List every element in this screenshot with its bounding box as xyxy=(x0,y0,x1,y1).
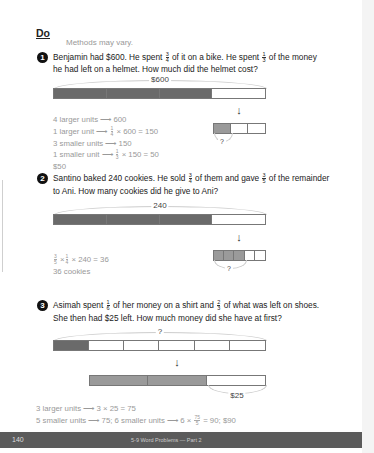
bar-total-label: 240 xyxy=(151,201,168,210)
problem-2-text-line2: to Ani. How many cookies did he give to … xyxy=(53,185,218,197)
problem-3-text-line2: She then had $25 left. How much money di… xyxy=(53,312,282,324)
unknown-label: ? xyxy=(225,265,233,272)
solution-line: 3 larger units ⟶ 3 × 25 = 75 xyxy=(36,403,136,415)
text: of the money xyxy=(267,52,317,62)
bar-model-1 xyxy=(53,88,266,99)
problem-number-badge: 2 xyxy=(37,173,48,184)
solution-line: 4 larger units ⟶ 600 xyxy=(53,114,126,126)
problem-number-badge: 3 xyxy=(37,300,48,311)
unknown-label: ? xyxy=(218,138,226,145)
solution-line: 35 ×14 × 240 = 36 xyxy=(53,254,109,266)
solution-answer: 36 cookies xyxy=(53,266,90,278)
section-heading: Do xyxy=(36,27,50,39)
bar-total-label: $600 xyxy=(149,75,171,84)
solution-line: 1 smaller unit ⟶ 13 × 150 = 50 xyxy=(53,149,159,161)
page-number: 140 xyxy=(12,436,24,443)
down-arrow-icon: ↓ xyxy=(236,104,242,116)
bar-model-3 xyxy=(53,340,266,351)
problem-1-text-line1: Benjamin had $600. He spent 34 of it on … xyxy=(53,51,317,64)
problem-number-badge: 1 xyxy=(37,52,48,63)
fraction: 13 xyxy=(262,52,265,64)
bar-model-2 xyxy=(53,214,266,225)
fraction: 34 xyxy=(166,52,169,64)
text: Benjamin had $600. He spent xyxy=(53,52,165,62)
solution-line: 3 smaller units ⟶ 150 xyxy=(53,138,132,150)
problem-3-text-line1: Asimah spent 16 of her money on a shirt … xyxy=(53,299,319,312)
footer-title: 5-9 Word Problems — Part 2 xyxy=(131,437,202,443)
solution-answer: $50 xyxy=(53,161,66,173)
solution-line: 1 larger unit ⟶ 14 × 600 = 150 xyxy=(53,126,158,138)
methods-note: Methods may vary. xyxy=(66,38,133,47)
problem-1-text-line2: he had left on a helmet. How much did th… xyxy=(53,63,258,75)
page-margin xyxy=(362,0,374,453)
problem-2-text-line1: Santino baked 240 cookies. He sold 34 of… xyxy=(53,172,329,185)
down-arrow-icon: ↓ xyxy=(174,356,180,368)
remaining-label: $25 xyxy=(228,391,245,400)
text: of it on a bike. He spent xyxy=(170,52,262,62)
down-arrow-icon: ↓ xyxy=(236,231,242,243)
solution-line: 5 smaller units ⟶ 75; 6 smaller units ⟶ … xyxy=(36,415,236,427)
bar-total-label: ? xyxy=(156,327,164,336)
left-margin-rule xyxy=(2,180,3,272)
